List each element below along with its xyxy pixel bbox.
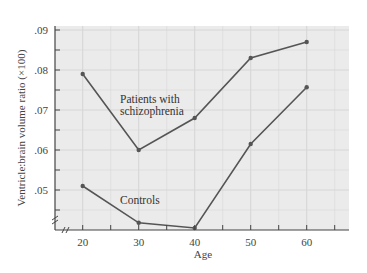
plot-background bbox=[55, 26, 349, 230]
series-label: Patients with bbox=[120, 93, 180, 105]
x-axis-title: Age bbox=[194, 248, 212, 260]
data-point bbox=[249, 56, 253, 60]
series-label: schizophrenia bbox=[120, 105, 184, 118]
data-point bbox=[137, 148, 141, 152]
x-tick-label: 30 bbox=[133, 236, 145, 248]
y-tick-label: .09 bbox=[34, 24, 48, 36]
x-tick-label: 50 bbox=[245, 236, 257, 248]
y-tick-label: .06 bbox=[34, 144, 48, 156]
x-tick-label: 40 bbox=[189, 236, 201, 248]
line-chart: 2030405060.05.06.07.08.09 Age Ventricle:… bbox=[0, 0, 367, 273]
data-point bbox=[137, 221, 141, 225]
y-tick-label: .05 bbox=[34, 184, 48, 196]
y-axis-title: Ventricle:brain volume ratio (×100) bbox=[15, 49, 28, 206]
x-tick-label: 60 bbox=[301, 236, 313, 248]
data-point bbox=[305, 85, 309, 89]
data-point bbox=[305, 40, 309, 44]
data-point bbox=[193, 116, 197, 120]
y-tick-label: .07 bbox=[34, 104, 48, 116]
series-label: Controls bbox=[120, 194, 160, 206]
data-point bbox=[249, 142, 253, 146]
x-tick-label: 20 bbox=[77, 236, 89, 248]
data-point bbox=[81, 184, 85, 188]
data-point bbox=[81, 72, 85, 76]
y-tick-label: .08 bbox=[34, 64, 48, 76]
